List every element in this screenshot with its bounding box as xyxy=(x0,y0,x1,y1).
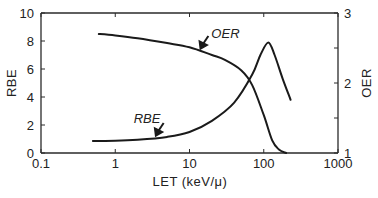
rbe-annotation-label: RBE xyxy=(134,111,161,126)
chart: 0.111010010000246810123 OERRBE LET (keV/… xyxy=(0,0,378,198)
rbe-arrowhead-icon xyxy=(155,128,163,136)
y-tick-label: 4 xyxy=(27,90,34,105)
oer-arrowhead-icon xyxy=(199,41,207,49)
x-tick-label: 0.1 xyxy=(32,156,50,171)
ticks: 0.111010010000246810123 xyxy=(20,6,353,171)
y2-tick-label: 1 xyxy=(344,146,351,161)
curves xyxy=(93,34,291,153)
y2-axis-label: OER xyxy=(359,68,374,98)
x-tick-label: 10 xyxy=(182,156,196,171)
y2-tick-label: 2 xyxy=(344,76,351,91)
y-tick-label: 2 xyxy=(27,118,34,133)
oer-annotation-label: OER xyxy=(211,26,239,41)
annotations: OERRBE xyxy=(134,26,240,136)
y-tick-label: 6 xyxy=(27,62,34,77)
y-axis-label: RBE xyxy=(4,69,19,97)
series-rbe-line xyxy=(93,42,291,141)
y-tick-label: 8 xyxy=(27,34,34,49)
x-axis-label: LET (keV/μ) xyxy=(153,174,228,189)
series-oer-line xyxy=(99,34,286,153)
y-tick-label: 10 xyxy=(20,6,34,21)
x-tick-label: 100 xyxy=(253,156,275,171)
y2-tick-label: 3 xyxy=(344,6,351,21)
y-tick-label: 0 xyxy=(27,146,34,161)
x-tick-label: 1 xyxy=(112,156,119,171)
